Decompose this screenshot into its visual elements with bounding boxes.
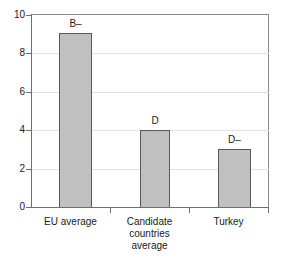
y-axis-label-4: 4 [0,125,25,135]
x-axis-category-label-candidate-countries-average: Candidate countries average [110,216,189,252]
x-tick-1 [110,208,111,213]
x-tick-3 [268,208,269,213]
y-tick-2 [26,169,31,170]
bar-candidate-countries-average [140,130,170,208]
bar-value-label-eu-average: B– [55,19,96,29]
category-line: Turkey [189,216,268,228]
bar-value-label-turkey: D– [214,135,255,145]
x-axis-category-label-eu-average: EU average [31,216,110,228]
x-axis-category-label-turkey: Turkey [189,216,268,228]
category-line: countries [110,228,189,240]
y-axis-label-0: 0 [0,202,25,212]
category-line: average [110,240,189,252]
category-line: Candidate [110,216,189,228]
x-tick-2 [189,208,190,213]
bar-turkey [218,149,251,208]
y-axis-line [31,14,32,207]
y-tick-8 [26,53,31,54]
bar-eu-average [59,33,92,208]
y-tick-6 [26,92,31,93]
y-tick-0 [26,207,31,208]
bar-value-label-candidate-countries-average: D [135,116,175,126]
y-tick-10 [26,15,31,16]
x-axis-line [31,207,269,208]
y-axis-label-2: 2 [0,164,25,174]
y-axis-label-8: 8 [0,48,25,58]
bar-chart: B– D D– 0 2 4 6 8 10 EU average Candidat… [0,0,287,265]
y-tick-4 [26,130,31,131]
y-axis-label-10: 10 [0,10,25,20]
y-axis-label-6: 6 [0,87,25,97]
category-line: EU average [31,216,110,228]
